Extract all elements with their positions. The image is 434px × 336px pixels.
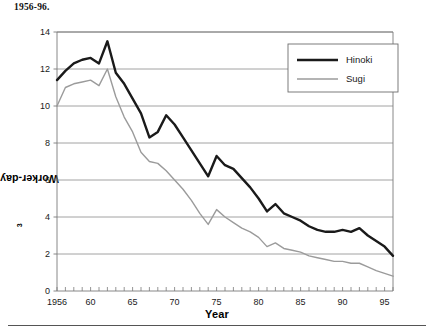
figure-chart: Worker-days per m3 024681012141956606570… <box>0 18 434 318</box>
y-tick-label-6: 6 <box>45 175 50 185</box>
y-tick-label-0: 0 <box>45 286 50 296</box>
bottom-divider <box>8 325 426 326</box>
x-tick-label-90: 90 <box>338 297 348 307</box>
x-axis-title: Year <box>0 308 434 320</box>
legend-label-hinoki: Hinoki <box>346 54 372 65</box>
series-line-sugi <box>57 69 393 276</box>
x-tick-label-75: 75 <box>212 297 222 307</box>
y-tick-label-12: 12 <box>40 64 50 74</box>
x-tick-label-1956: 1956 <box>47 297 67 307</box>
x-tick-label-95: 95 <box>380 297 390 307</box>
x-tick-label-65: 65 <box>128 297 138 307</box>
y-tick-label-14: 14 <box>40 27 50 37</box>
x-tick-label-60: 60 <box>86 297 96 307</box>
y-tick-label-10: 10 <box>40 101 50 111</box>
legend-box <box>288 44 398 92</box>
y-tick-label-2: 2 <box>45 249 50 259</box>
plot-area: 0246810121419566065707580859095HinokiSug… <box>0 18 434 318</box>
figure-caption: 1956-96. <box>14 2 50 12</box>
x-tick-label-85: 85 <box>296 297 306 307</box>
caption-clipped-line <box>14 0 414 4</box>
y-tick-label-8: 8 <box>45 138 50 148</box>
legend-label-sugi: Sugi <box>346 73 365 84</box>
y-tick-label-4: 4 <box>45 212 50 222</box>
x-tick-label-80: 80 <box>254 297 264 307</box>
x-tick-label-70: 70 <box>170 297 180 307</box>
